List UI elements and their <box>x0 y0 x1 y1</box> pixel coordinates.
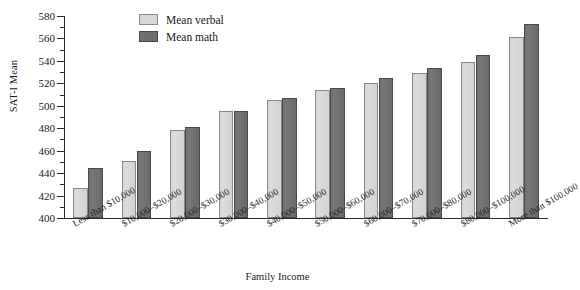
y-axis-title: SAT-I Mean <box>8 36 24 136</box>
y-tick-major <box>57 218 64 219</box>
y-tick-major <box>57 128 64 129</box>
plot-area: 400420440460480500520540560580 <box>64 16 548 218</box>
y-tick-label: 400 <box>39 212 56 224</box>
bar-math <box>282 98 297 218</box>
y-tick-major <box>57 61 64 62</box>
y-tick-major <box>57 173 64 174</box>
y-tick-label: 440 <box>39 167 56 179</box>
bar-math <box>379 78 394 218</box>
bar-math <box>476 55 491 218</box>
y-tick-label: 580 <box>39 10 56 22</box>
y-tick-label: 420 <box>39 190 56 202</box>
bar-math <box>524 24 539 218</box>
y-tick-major <box>57 16 64 17</box>
y-tick-label: 500 <box>39 100 56 112</box>
bar-verbal <box>219 111 234 218</box>
y-tick-label: 520 <box>39 77 56 89</box>
y-tick-major <box>57 38 64 39</box>
y-tick-label: 560 <box>39 32 56 44</box>
bars-layer <box>64 16 548 218</box>
y-tick-label: 460 <box>39 145 56 157</box>
y-tick-major <box>57 151 64 152</box>
y-tick-major <box>57 196 64 197</box>
x-axis-title: Family Income <box>0 271 555 282</box>
y-tick-label: 540 <box>39 55 56 67</box>
x-axis-category-labels: Less than $10,000$10,000–$20,000$20,000–… <box>64 220 548 272</box>
bar-math <box>427 68 442 218</box>
y-tick-major <box>57 83 64 84</box>
y-tick-label: 480 <box>39 122 56 134</box>
bar-verbal <box>170 130 185 218</box>
y-tick-major <box>57 106 64 107</box>
bar-math <box>330 88 345 218</box>
